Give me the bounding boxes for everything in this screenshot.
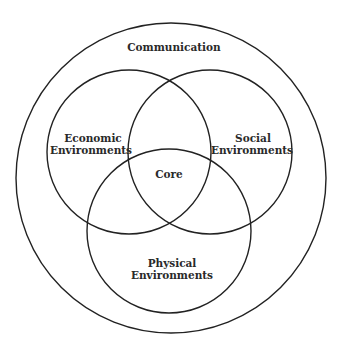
economic-label-line1: Economic — [64, 132, 122, 144]
venn-diagram: Communication Economic Environments Soci… — [0, 0, 341, 351]
physical-label-line1: Physical — [148, 257, 197, 269]
social-label-line2: Environments — [211, 144, 293, 156]
physical-label-line2: Environments — [131, 269, 213, 281]
economic-label-line2: Environments — [50, 144, 132, 156]
communication-label: Communication — [127, 41, 221, 53]
core-label: Core — [155, 168, 183, 180]
social-label-line1: Social — [235, 132, 271, 144]
